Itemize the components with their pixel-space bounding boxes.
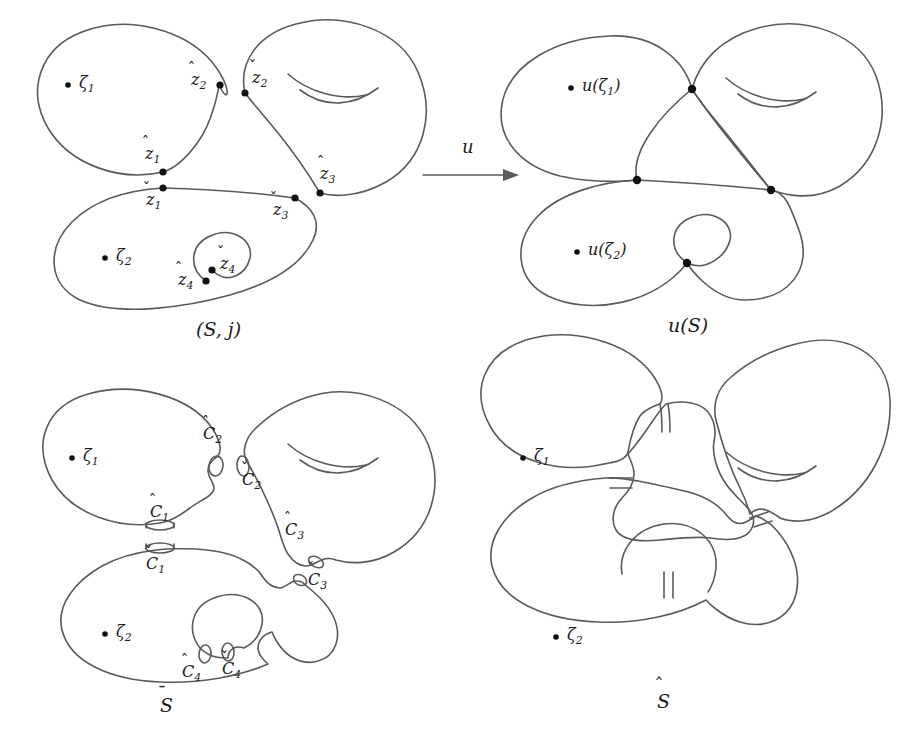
label-z3-check: ̌z3 bbox=[273, 202, 288, 222]
p2-handle-upper bbox=[726, 78, 804, 101]
p4-bottom-sphere bbox=[491, 478, 798, 625]
label-zeta-1-p4: ζ1 bbox=[534, 448, 550, 468]
p2-handle-lower bbox=[738, 92, 816, 107]
caption-panel-s-j: (S, j) bbox=[196, 318, 241, 340]
label-z3-hat: ̂z3 bbox=[320, 166, 335, 186]
p2-right-torus bbox=[692, 24, 882, 196]
diagram-artwork bbox=[0, 0, 897, 746]
label-zeta-1-p3: ζ1 bbox=[83, 448, 99, 468]
p4-handle-upper bbox=[726, 452, 804, 475]
label-z2-hat: ̂z2 bbox=[191, 72, 206, 92]
p1-node-z3-check bbox=[291, 194, 298, 201]
label-C3-check: ̌C3 bbox=[308, 572, 327, 592]
map-arrow-label: u bbox=[462, 136, 474, 157]
map-arrow-glyph bbox=[423, 169, 519, 181]
p2-node-loop bbox=[683, 259, 691, 267]
p2-node-left bbox=[633, 176, 641, 184]
p1-node-z1-hat bbox=[159, 168, 166, 175]
p2-dot-zeta-2 bbox=[574, 249, 580, 255]
p3-bottom-sphere bbox=[61, 549, 338, 683]
label-u-zeta-1: u(ζ1) bbox=[582, 78, 620, 98]
label-z1-hat: ̂z1 bbox=[145, 146, 160, 166]
p1-node-z3-hat bbox=[316, 189, 323, 196]
p2-inner-loop bbox=[674, 215, 731, 266]
label-z4-hat: ̂z4 bbox=[178, 272, 193, 292]
label-z1-check: ̌z1 bbox=[146, 192, 161, 212]
label-C3-hat: ̂C3 bbox=[285, 522, 304, 542]
p4-neck-top bbox=[660, 404, 670, 432]
p4-neck-bottom bbox=[664, 572, 673, 598]
label-C1-check: ̌C1 bbox=[146, 556, 165, 576]
p3-dot-zeta-2 bbox=[102, 631, 108, 637]
p4-dot-zeta-1 bbox=[520, 455, 526, 461]
p4-handle-lower bbox=[738, 466, 816, 481]
label-zeta-2-p4: ζ2 bbox=[567, 627, 583, 647]
caption-panel-s-bar: ̄S bbox=[160, 694, 173, 716]
p3-handle-lower bbox=[300, 458, 378, 473]
p3-inner-loop bbox=[192, 595, 262, 658]
figure-canvas: ζ1 ζ2 ̂z1 ̌z1 ̂z2 ̌z2 ̂z3 ̌z3 ̂z4 ̌z4 (S… bbox=[0, 0, 897, 746]
p1-node-z2-check bbox=[241, 89, 248, 96]
p1-node-z1-check bbox=[159, 184, 166, 191]
label-C4-check: ̌C4 bbox=[222, 661, 241, 681]
p2-node-right bbox=[767, 186, 775, 194]
p3-right-torus bbox=[244, 392, 435, 566]
label-C4-hat: ̂C4 bbox=[182, 664, 201, 684]
label-z4-check: ̌z4 bbox=[220, 256, 235, 276]
p4-dot-zeta-2 bbox=[553, 634, 559, 640]
p1-dot-zeta-2 bbox=[102, 255, 108, 261]
p4-left-sphere bbox=[481, 335, 662, 467]
caption-panel-u-s: u(S) bbox=[668, 314, 708, 336]
p3-dot-zeta-1 bbox=[69, 455, 75, 461]
p1-node-z4-hat bbox=[202, 277, 209, 284]
p2-dot-zeta-1 bbox=[568, 85, 574, 91]
label-zeta-2-p3: ζ2 bbox=[116, 624, 132, 644]
p2-bottom-sphere bbox=[521, 180, 803, 305]
p4-inner-arch bbox=[621, 523, 716, 592]
p1-node-z4-check bbox=[208, 266, 215, 273]
p1-handle-lower bbox=[300, 88, 378, 103]
p1-dot-zeta-1 bbox=[65, 82, 71, 88]
p1-handle-upper bbox=[288, 74, 366, 97]
p2-left-sphere bbox=[501, 36, 692, 181]
p1-left-sphere bbox=[38, 24, 228, 174]
p2-node-upper bbox=[688, 85, 696, 93]
p3-circle-C1-check bbox=[146, 543, 174, 553]
p4-right-torus bbox=[715, 340, 890, 521]
label-u-zeta-2: u(ζ2) bbox=[588, 242, 626, 262]
label-z2-check: ̌z2 bbox=[252, 70, 267, 90]
label-C2-hat: ̂C2 bbox=[203, 426, 222, 446]
p3-handle-upper bbox=[288, 444, 366, 467]
label-zeta-1-p1: ζ1 bbox=[79, 75, 95, 95]
p3-circle-C2-hat bbox=[208, 455, 225, 477]
label-zeta-2-p1: ζ2 bbox=[116, 248, 132, 268]
caption-panel-s-hat: ̂S bbox=[657, 690, 670, 712]
label-C2-check: ̌C2 bbox=[242, 472, 261, 492]
p1-node-z2-hat bbox=[216, 81, 223, 88]
label-C1-hat: ̂C1 bbox=[150, 504, 169, 524]
node-dots bbox=[65, 81, 775, 639]
